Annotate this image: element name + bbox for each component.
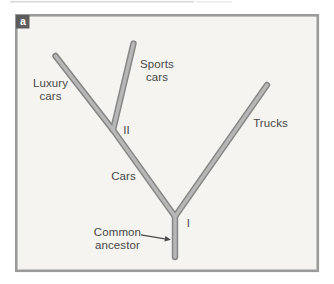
panel-label-badge: a [16, 15, 30, 29]
scan-artifact-right [196, 1, 232, 2]
label-common-ancestor-line1: Common [94, 226, 141, 238]
label-luxury-cars-line1: Luxury [33, 77, 68, 89]
label-common-ancestor-line2: ancestor [95, 239, 140, 251]
scan-artifact-left [10, 1, 194, 3]
label-node-II: II [123, 124, 130, 136]
figure-frame [16, 15, 318, 270]
scan-artifact-strip [10, 1, 232, 3]
label-luxury-cars-line2: cars [39, 90, 61, 102]
screenshot-root: a Luxury cars Sports cars Trucks Cars II… [0, 0, 334, 284]
label-sports-cars-line2: cars [146, 71, 168, 83]
label-node-I: I [187, 217, 190, 229]
label-trucks: Trucks [253, 117, 288, 129]
label-sports-cars-line1: Sports [140, 58, 174, 70]
cladogram-diagram: a Luxury cars Sports cars Trucks Cars II… [0, 0, 334, 284]
label-cars: Cars [111, 170, 136, 182]
panel-label: a [20, 15, 26, 27]
